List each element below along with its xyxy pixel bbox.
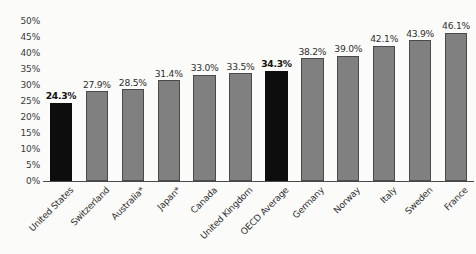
x-axis-tick-label: Norway bbox=[332, 185, 362, 215]
bar-rect[interactable] bbox=[373, 46, 395, 181]
bar-rect[interactable] bbox=[409, 40, 431, 180]
bar-switzerland[interactable] bbox=[86, 91, 108, 180]
x-axis-tick-label: Germany bbox=[291, 185, 326, 220]
x-axis-tick-label: Italy bbox=[378, 185, 398, 205]
bar-rect[interactable] bbox=[122, 89, 144, 180]
bar-united-states[interactable] bbox=[50, 103, 72, 181]
x-axis-line bbox=[43, 181, 474, 182]
bar-value-label: 34.3% bbox=[261, 58, 292, 69]
bar-united-kingdom[interactable] bbox=[229, 73, 251, 180]
bar-value-label: 33.5% bbox=[227, 61, 255, 72]
bar-rect[interactable] bbox=[86, 91, 108, 180]
x-axis-tick-label: France bbox=[443, 185, 470, 212]
bar-value-label: 33.0% bbox=[191, 62, 219, 73]
bar-rect[interactable] bbox=[229, 73, 251, 180]
bar-value-label: 42.1% bbox=[370, 33, 398, 44]
bar-australia[interactable] bbox=[122, 89, 144, 180]
bar-value-label: 24.3% bbox=[46, 90, 77, 101]
bar-value-label: 28.5% bbox=[119, 77, 147, 88]
y-axis-tick-label: 40% bbox=[6, 48, 40, 58]
y-axis-tick-label: 10% bbox=[6, 144, 40, 154]
bar-value-label: 43.9% bbox=[406, 28, 434, 39]
x-axis-tick-label: Canada bbox=[188, 185, 218, 215]
y-axis-tick-label: 50% bbox=[6, 16, 40, 26]
bar-rect[interactable] bbox=[445, 33, 467, 181]
y-axis-tick-label: 35% bbox=[6, 64, 40, 74]
bar-germany[interactable] bbox=[301, 58, 323, 180]
x-axis: United StatesSwitzerlandAustralia*Japan*… bbox=[43, 183, 474, 254]
bar-italy[interactable] bbox=[373, 46, 395, 181]
y-axis-tick-label: 5% bbox=[6, 160, 40, 170]
plot-area: 24.3%27.9%28.5%31.4%33.0%33.5%34.3%38.2%… bbox=[43, 0, 474, 182]
bar-rect[interactable] bbox=[50, 103, 72, 181]
y-axis-tick-label: 25% bbox=[6, 96, 40, 106]
bar-france[interactable] bbox=[445, 33, 467, 181]
bar-norway[interactable] bbox=[337, 56, 359, 181]
y-axis-tick-label: 30% bbox=[6, 80, 40, 90]
bar-rect[interactable] bbox=[158, 80, 180, 180]
bar-oecd-average[interactable] bbox=[265, 71, 287, 181]
y-axis-tick-label: 15% bbox=[6, 128, 40, 138]
bar-japan[interactable] bbox=[158, 80, 180, 180]
x-axis-tick-label: Japan* bbox=[156, 185, 183, 212]
bar-rect[interactable] bbox=[301, 58, 323, 180]
bar-rect[interactable] bbox=[265, 71, 287, 181]
y-axis-tick-label: 20% bbox=[6, 112, 40, 122]
bar-rect[interactable] bbox=[337, 56, 359, 181]
bar-chart: 50%45%40%35%30%25%20%15%10%5%0% 24.3%27.… bbox=[0, 0, 476, 254]
y-axis-tick-label: 45% bbox=[6, 32, 40, 42]
x-axis-tick-label: Sweden bbox=[403, 185, 434, 216]
bar-canada[interactable] bbox=[193, 75, 215, 181]
bar-value-label: 46.1% bbox=[442, 20, 470, 31]
y-axis: 50%45%40%35%30%25%20%15%10%5%0% bbox=[4, 0, 40, 254]
bar-value-label: 39.0% bbox=[334, 43, 362, 54]
bar-rect[interactable] bbox=[193, 75, 215, 181]
bar-value-label: 31.4% bbox=[155, 68, 183, 79]
bar-value-label: 27.9% bbox=[83, 79, 111, 90]
bar-value-label: 38.2% bbox=[298, 46, 326, 57]
x-axis-tick-label: Australia* bbox=[110, 185, 147, 222]
y-axis-tick-label: 0% bbox=[6, 176, 40, 186]
bar-sweden[interactable] bbox=[409, 40, 431, 180]
